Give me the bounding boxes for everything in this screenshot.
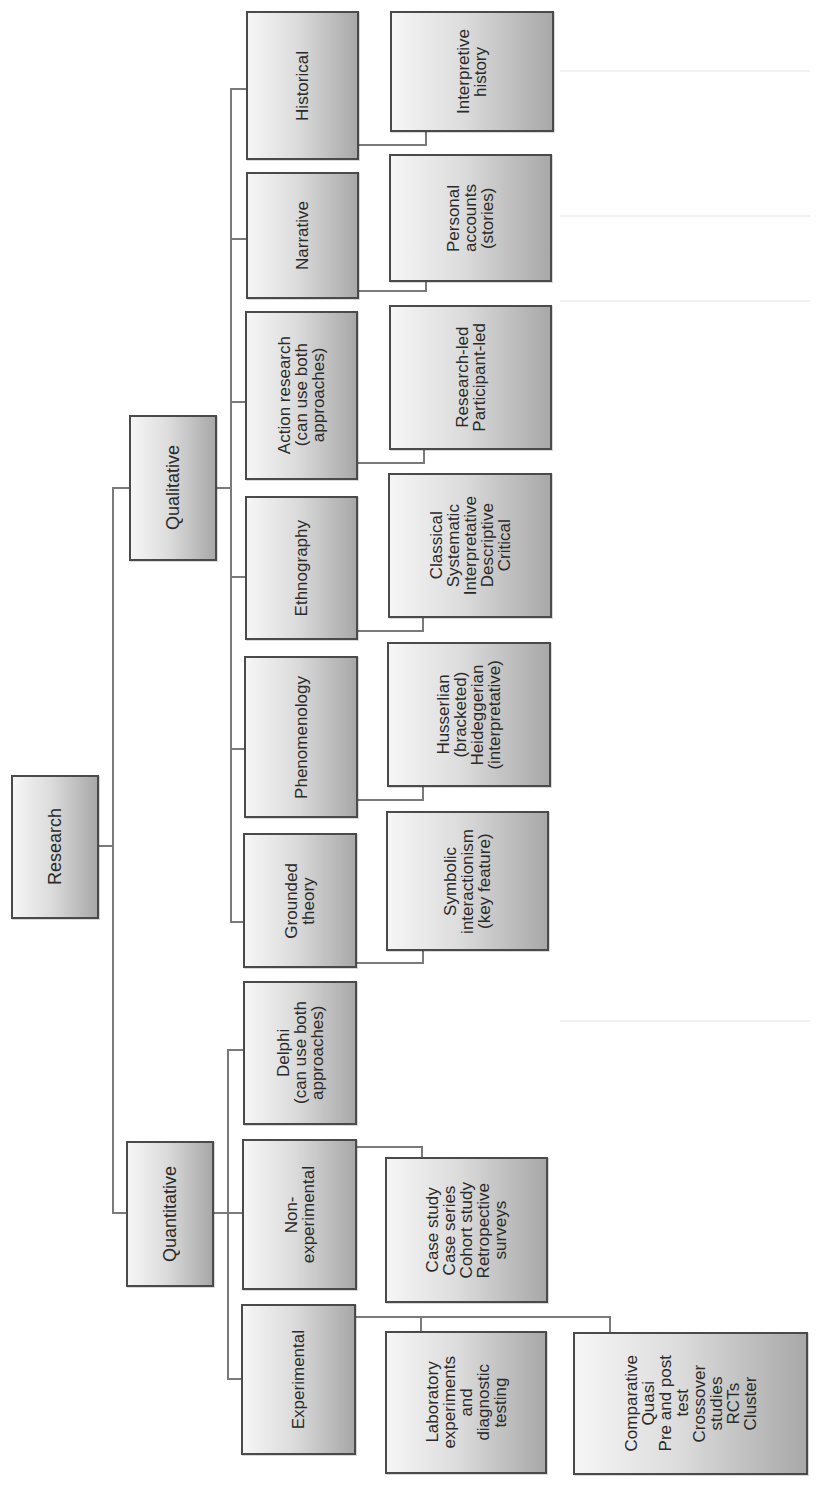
connector-experimental-lab-v — [420, 1316, 422, 1332]
detail-personal-accounts-text: Personal accounts (stories) — [445, 184, 496, 252]
connector-ethnography-detail — [357, 630, 423, 632]
connector-qualitative-trunk — [230, 88, 232, 923]
connector-to-non-experimental — [227, 1212, 242, 1214]
detail-interpretive-history: Interpretive history — [390, 11, 554, 132]
background-text-bleed — [560, 215, 810, 217]
detail-comparative-designs-text: Comparative Quasi Pre and post test Cros… — [623, 1355, 759, 1451]
node-phenomenology-label: Phenomenology — [293, 676, 310, 799]
detail-personal-accounts: Personal accounts (stories) — [389, 154, 552, 282]
connector-to-delphi — [227, 1049, 243, 1051]
connector-non-experimental-detail — [356, 1146, 422, 1148]
connector-experimental-detail — [355, 1316, 611, 1318]
detail-phenomenology-types: Husserlian (bracketed) Heideggerian (int… — [387, 642, 551, 787]
node-non-experimental-label: Non- experimental — [283, 1166, 317, 1263]
detail-symbolic-interactionism: Symbolic interactionism (key feature) — [386, 811, 549, 951]
node-experimental: Experimental — [241, 1304, 356, 1455]
research-methods-tree-diagram: Research Qualitative Quantitative Histor… — [0, 0, 821, 1496]
detail-research-led-text: Research-led Participant-led — [454, 323, 488, 432]
detail-non-experimental-types: Case study Case series Cohort study Retr… — [385, 1157, 548, 1303]
connector-narrative-detail — [358, 290, 426, 292]
connector-historical-detail-v — [425, 130, 427, 146]
connector-to-qualitative — [112, 487, 129, 489]
connector-action-detail-v — [423, 448, 425, 464]
detail-ethnography-types-text: Classical Systematic Interpretative Desc… — [428, 496, 513, 595]
connector-action-detail — [358, 462, 424, 464]
detail-ethnography-types: Classical Systematic Interpretative Desc… — [388, 473, 552, 618]
detail-laboratory-experiments-text: Laboratory experiments and diagnostic te… — [424, 1356, 509, 1449]
detail-laboratory-experiments: Laboratory experiments and diagnostic te… — [385, 1331, 547, 1474]
node-research-label: Research — [47, 808, 64, 885]
connector-grounded-detail-v — [422, 949, 424, 964]
node-research: Research — [11, 775, 99, 919]
connector-grounded-detail — [357, 962, 423, 964]
connector-to-historical — [230, 88, 246, 90]
node-qualitative: Qualitative — [129, 415, 217, 561]
node-grounded-theory-label: Grounded theory — [283, 863, 317, 939]
node-quantitative: Quantitative — [126, 1141, 214, 1287]
connector-to-quantitative — [112, 1212, 126, 1214]
detail-research-led: Research-led Participant-led — [389, 305, 552, 450]
detail-symbolic-interactionism-text: Symbolic interactionism (key feature) — [442, 829, 493, 934]
background-text-bleed — [560, 70, 810, 72]
node-historical: Historical — [246, 11, 359, 160]
node-non-experimental: Non- experimental — [242, 1139, 357, 1290]
connector-phenomenology-detail — [357, 799, 423, 801]
node-historical-label: Historical — [294, 51, 311, 121]
connector-ethnography-detail-v — [422, 616, 424, 632]
node-experimental-label: Experimental — [290, 1330, 307, 1429]
connector-to-ethnography — [230, 576, 246, 578]
node-ethnography: Ethnography — [245, 496, 358, 640]
node-qualitative-label: Qualitative — [165, 445, 182, 530]
node-phenomenology: Phenomenology — [244, 656, 358, 818]
node-grounded-theory: Grounded theory — [243, 833, 357, 968]
node-narrative-label: Narrative — [294, 201, 311, 270]
node-action-research-label: Action research (can use both approaches… — [276, 336, 327, 454]
node-delphi-label: Delphi (can use both approaches) — [275, 1001, 326, 1104]
node-action-research: Action research (can use both approaches… — [245, 311, 358, 480]
connector-quantitative-trunk — [227, 1049, 229, 1380]
connector-to-narrative — [230, 238, 246, 240]
detail-phenomenology-types-text: Husserlian (bracketed) Heideggerian (int… — [435, 660, 503, 770]
detail-comparative-designs: Comparative Quasi Pre and post test Cros… — [573, 1332, 808, 1475]
background-text-bleed — [560, 1020, 810, 1022]
detail-interpretive-history-text: Interpretive history — [455, 29, 489, 114]
connector-root-trunk — [112, 487, 114, 1214]
connector-to-action-research — [230, 401, 246, 403]
connector-historical-detail — [358, 144, 426, 146]
connector-experimental-comparative-v — [609, 1316, 611, 1333]
node-ethnography-label: Ethnography — [293, 520, 310, 616]
connector-phenomenology-detail-v — [422, 785, 424, 801]
node-narrative: Narrative — [246, 172, 359, 299]
node-quantitative-label: Quantitative — [162, 1166, 179, 1262]
node-delphi: Delphi (can use both approaches) — [243, 981, 357, 1125]
connector-to-experimental — [227, 1378, 241, 1380]
background-text-bleed — [560, 300, 810, 302]
detail-non-experimental-types-text: Case study Case series Cohort study Retr… — [424, 1182, 509, 1278]
